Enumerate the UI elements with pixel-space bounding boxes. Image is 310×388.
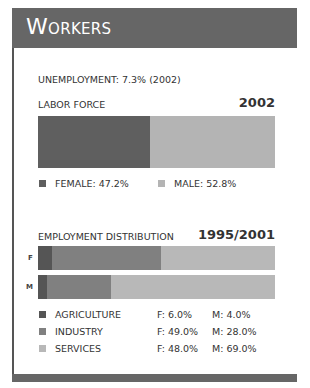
agriculture-swatch-icon bbox=[39, 311, 46, 318]
female-services-segment bbox=[161, 246, 275, 270]
female-legend: FEMALE: 47.2% bbox=[55, 178, 129, 189]
employment-year: 1995/2001 bbox=[198, 227, 275, 242]
female-industry-segment bbox=[52, 246, 161, 270]
panel-header: Workers bbox=[12, 8, 297, 48]
female-distribution-bar bbox=[38, 246, 275, 270]
employment-label: EMPLOYMENT DISTRIBUTION bbox=[38, 231, 174, 242]
services-legend: SERVICES bbox=[55, 343, 101, 354]
industry-female-value: F: 49.0% bbox=[157, 326, 198, 337]
services-swatch-icon bbox=[39, 345, 46, 352]
labor-force-label: LABOR FORCE bbox=[38, 99, 105, 110]
male-legend: MALE: 52.8% bbox=[174, 178, 236, 189]
labor-force-year: 2002 bbox=[239, 95, 275, 110]
row-label-female: F bbox=[28, 254, 33, 262]
panel-title: Workers bbox=[26, 14, 111, 39]
agriculture-male-value: M: 4.0% bbox=[212, 309, 251, 320]
labor-force-bar bbox=[38, 116, 275, 168]
female-segment bbox=[38, 116, 150, 168]
industry-male-value: M: 28.0% bbox=[212, 326, 257, 337]
male-segment bbox=[150, 116, 275, 168]
left-border bbox=[12, 48, 14, 374]
female-swatch-icon bbox=[39, 180, 46, 187]
services-male-value: M: 69.0% bbox=[212, 343, 257, 354]
agriculture-legend: AGRICULTURE bbox=[55, 309, 121, 320]
panel-footer-bar bbox=[12, 374, 297, 382]
unemployment-label: UNEMPLOYMENT: 7.3% (2002) bbox=[38, 74, 181, 85]
male-services-segment bbox=[111, 275, 275, 299]
industry-swatch-icon bbox=[39, 328, 46, 335]
industry-legend: INDUSTRY bbox=[55, 326, 103, 337]
male-swatch-icon bbox=[158, 180, 165, 187]
female-agriculture-segment bbox=[38, 246, 52, 270]
male-agriculture-segment bbox=[38, 275, 47, 299]
male-industry-segment bbox=[47, 275, 111, 299]
services-female-value: F: 48.0% bbox=[157, 343, 198, 354]
agriculture-female-value: F: 6.0% bbox=[157, 309, 192, 320]
row-label-male: M bbox=[26, 283, 33, 291]
male-distribution-bar bbox=[38, 275, 275, 299]
